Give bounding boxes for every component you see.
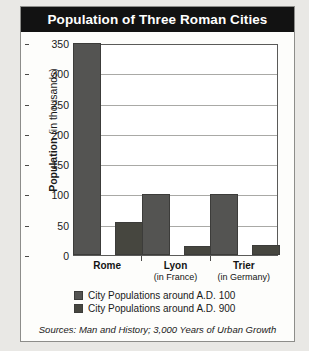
category-name: Trier [233, 260, 255, 271]
y-axis-tick-label: 200 [29, 129, 69, 141]
gridline [74, 195, 277, 196]
gridline [74, 165, 277, 166]
gridline [74, 74, 277, 75]
y-axis-tick-mark [25, 256, 29, 257]
y-axis-tick-label: 150 [29, 159, 69, 171]
gridline [74, 105, 277, 106]
y-axis-tick-mark [25, 195, 29, 196]
y-axis-tick-label: 100 [29, 189, 69, 201]
y-axis-tick-mark [25, 74, 29, 75]
chart-body: Population (in thousands) 35030025020015… [21, 32, 294, 341]
bar [115, 222, 143, 255]
legend-item-label: City Populations around A.D. 100 [88, 290, 235, 301]
chart-title-banner: Population of Three Roman Cities [21, 7, 294, 32]
y-axis-tick-label: 50 [29, 220, 69, 232]
legend-item: City Populations around A.D. 900 [74, 303, 235, 314]
plot-area [73, 44, 278, 256]
gridline [74, 135, 277, 136]
category-name: Lyon [164, 260, 188, 271]
source-note: Sources: Man and History; 3,000 Years of… [21, 324, 294, 335]
page-title: Population of Three Roman Cities [48, 12, 268, 27]
y-axis-tick-mark [25, 105, 29, 106]
chart-screenshot: Population of Three Roman Cities Populat… [0, 0, 309, 351]
bar [73, 43, 101, 255]
y-axis-tick-label: 250 [29, 99, 69, 111]
legend-item-label: City Populations around A.D. 900 [88, 303, 235, 314]
y-axis-tick-mark [25, 165, 29, 166]
y-axis-tick-label: 300 [29, 68, 69, 80]
y-axis-tick-mark [25, 135, 29, 136]
category-sublabel: (in Germany) [194, 272, 294, 282]
bar [142, 194, 170, 255]
y-axis-tick-label: 350 [29, 38, 69, 50]
legend-swatch-icon [74, 291, 83, 300]
y-axis-tick-mark [25, 44, 29, 45]
x-axis-category-label: Trier(in Germany) [194, 260, 294, 282]
y-axis-tick-mark [25, 226, 29, 227]
legend-swatch-icon [74, 304, 83, 313]
category-name: Rome [93, 260, 121, 271]
chart-card: Population of Three Roman Cities Populat… [20, 6, 295, 342]
chart-legend: City Populations around A.D. 100 City Po… [74, 290, 235, 316]
bar [210, 194, 238, 255]
legend-item: City Populations around A.D. 100 [74, 290, 235, 301]
gridline [74, 226, 277, 227]
bar [252, 245, 280, 255]
bar [184, 246, 212, 255]
